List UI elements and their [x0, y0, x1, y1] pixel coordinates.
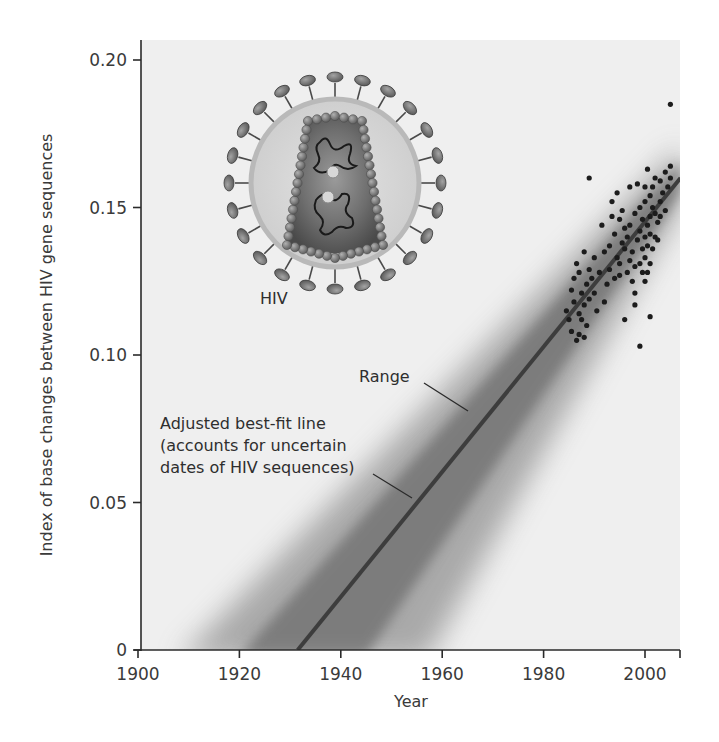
data-point: [566, 317, 571, 322]
data-point: [577, 270, 582, 275]
spike-icon: [436, 175, 446, 191]
data-point: [637, 261, 642, 266]
data-point: [632, 264, 637, 269]
data-point: [648, 314, 653, 319]
data-point: [645, 270, 650, 275]
bestfit-label-line1: Adjusted best-fit line: [160, 414, 326, 433]
x-tick-label: 1920: [218, 664, 261, 684]
spike-icon: [327, 72, 343, 82]
hiv-virion-illustration: [224, 72, 446, 294]
data-point: [648, 193, 653, 198]
data-point: [645, 243, 650, 248]
data-point: [642, 255, 647, 260]
data-point: [653, 175, 658, 180]
data-point: [609, 214, 614, 219]
data-point: [609, 199, 614, 204]
data-point: [604, 282, 609, 287]
data-point: [655, 220, 660, 225]
data-point: [569, 288, 574, 293]
x-tick-label: 1940: [319, 664, 362, 684]
data-point: [622, 246, 627, 251]
data-point: [589, 276, 594, 281]
data-point: [607, 267, 612, 272]
x-tick-label: 2000: [623, 664, 666, 684]
data-point: [632, 302, 637, 307]
data-point: [569, 329, 574, 334]
data-point: [655, 237, 660, 242]
data-point: [584, 282, 589, 287]
data-point: [637, 229, 642, 234]
data-point: [577, 311, 582, 316]
data-point: [640, 217, 645, 222]
data-point: [648, 232, 653, 237]
data-point: [625, 270, 630, 275]
data-point: [630, 249, 635, 254]
y-tick-label: 0.20: [89, 50, 127, 70]
data-point: [587, 175, 592, 180]
data-point: [640, 270, 645, 275]
data-point: [645, 167, 650, 172]
data-point: [574, 338, 579, 343]
data-point: [622, 226, 627, 231]
data-point: [642, 199, 647, 204]
data-point: [637, 344, 642, 349]
data-point: [648, 261, 653, 266]
x-axis-title: Year: [393, 692, 428, 711]
data-point: [665, 184, 670, 189]
bestfit-label-line3: dates of HIV sequences): [160, 458, 354, 477]
data-point: [630, 279, 635, 284]
data-point: [632, 291, 637, 296]
data-point: [587, 296, 592, 301]
x-ticks: 190019201940196019802000: [116, 650, 680, 684]
data-point: [582, 302, 587, 307]
data-point: [607, 243, 612, 248]
data-point: [642, 184, 647, 189]
data-point: [617, 217, 622, 222]
data-point: [658, 178, 663, 183]
data-point: [612, 232, 617, 237]
x-tick-label: 1900: [116, 664, 159, 684]
hiv-label: HIV: [260, 289, 288, 308]
y-tick-label: 0.15: [89, 198, 127, 218]
data-point: [627, 184, 632, 189]
data-point: [622, 317, 627, 322]
y-ticks: 00.050.100.150.20: [89, 50, 141, 660]
data-point: [663, 170, 668, 175]
y-tick-label: 0.05: [89, 493, 127, 513]
data-point: [637, 205, 642, 210]
data-point: [592, 255, 597, 260]
y-tick-label: 0: [116, 640, 127, 660]
data-point: [599, 223, 604, 228]
data-point: [582, 249, 587, 254]
data-point: [660, 190, 665, 195]
x-tick-label: 1960: [421, 664, 464, 684]
data-point: [625, 234, 630, 239]
chart: 00.050.100.150.20 1900192019401960198020…: [0, 0, 719, 742]
data-point: [648, 214, 653, 219]
data-point: [587, 267, 592, 272]
range-label: Range: [359, 367, 410, 386]
data-point: [627, 223, 632, 228]
data-point: [571, 299, 576, 304]
data-point: [650, 246, 655, 251]
data-point: [612, 276, 617, 281]
x-tick-label: 1980: [522, 664, 565, 684]
data-point: [650, 184, 655, 189]
y-tick-label: 0.10: [89, 345, 127, 365]
data-point: [653, 211, 658, 216]
data-point: [584, 323, 589, 328]
data-point: [602, 299, 607, 304]
data-point: [564, 308, 569, 313]
data-point: [574, 261, 579, 266]
data-point: [627, 258, 632, 263]
data-point: [577, 332, 582, 337]
data-point: [642, 279, 647, 284]
bestfit-label-line2: (accounts for uncertain: [160, 436, 347, 455]
data-point: [615, 190, 620, 195]
spike-icon: [224, 175, 234, 191]
y-axis-title: Index of base changes between HIV gene s…: [37, 134, 56, 557]
data-point: [592, 291, 597, 296]
spike-icon: [327, 284, 343, 294]
data-point: [620, 208, 625, 213]
data-point: [620, 240, 625, 245]
